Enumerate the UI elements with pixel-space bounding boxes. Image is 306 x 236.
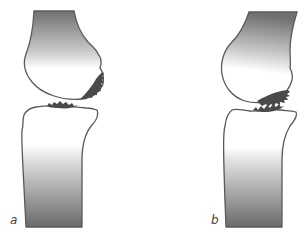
panel-a [22, 11, 104, 227]
tibia-b [224, 109, 297, 227]
panel-label-a: a [10, 214, 17, 226]
panel-b [221, 12, 297, 227]
femur-b [221, 12, 297, 103]
panel-label-b: b [211, 214, 219, 226]
knee-joint-diagram [0, 0, 306, 236]
tibia-a [22, 106, 98, 227]
